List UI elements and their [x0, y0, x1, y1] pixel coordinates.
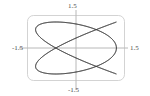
lissajous-plot-figure: 1.5 -1.5 1.5 -1.5 [0, 0, 150, 96]
axis-label-bottom: -1.5 [68, 86, 79, 94]
axis-label-left: -1.5 [12, 44, 23, 52]
axis-label-right: 1.5 [130, 44, 139, 52]
axis-label-top: 1.5 [68, 2, 77, 10]
